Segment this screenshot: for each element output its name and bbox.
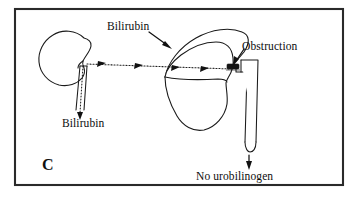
- obstructive-jaundice-diagram: Bilirubin Bilirubin Obstruction No urobi…: [0, 0, 359, 199]
- label-no-urobilinogen: No urobilinogen: [196, 170, 273, 183]
- label-obstruction: Obstruction: [242, 40, 298, 52]
- panel-letter-c: C: [42, 156, 54, 173]
- obstruction-block-shape: [227, 64, 239, 69]
- label-bilirubin-urine: Bilirubin: [62, 117, 105, 129]
- figure-panel-c: Bilirubin Bilirubin Obstruction No urobi…: [0, 0, 359, 199]
- label-bilirubin-blood: Bilirubin: [107, 20, 150, 32]
